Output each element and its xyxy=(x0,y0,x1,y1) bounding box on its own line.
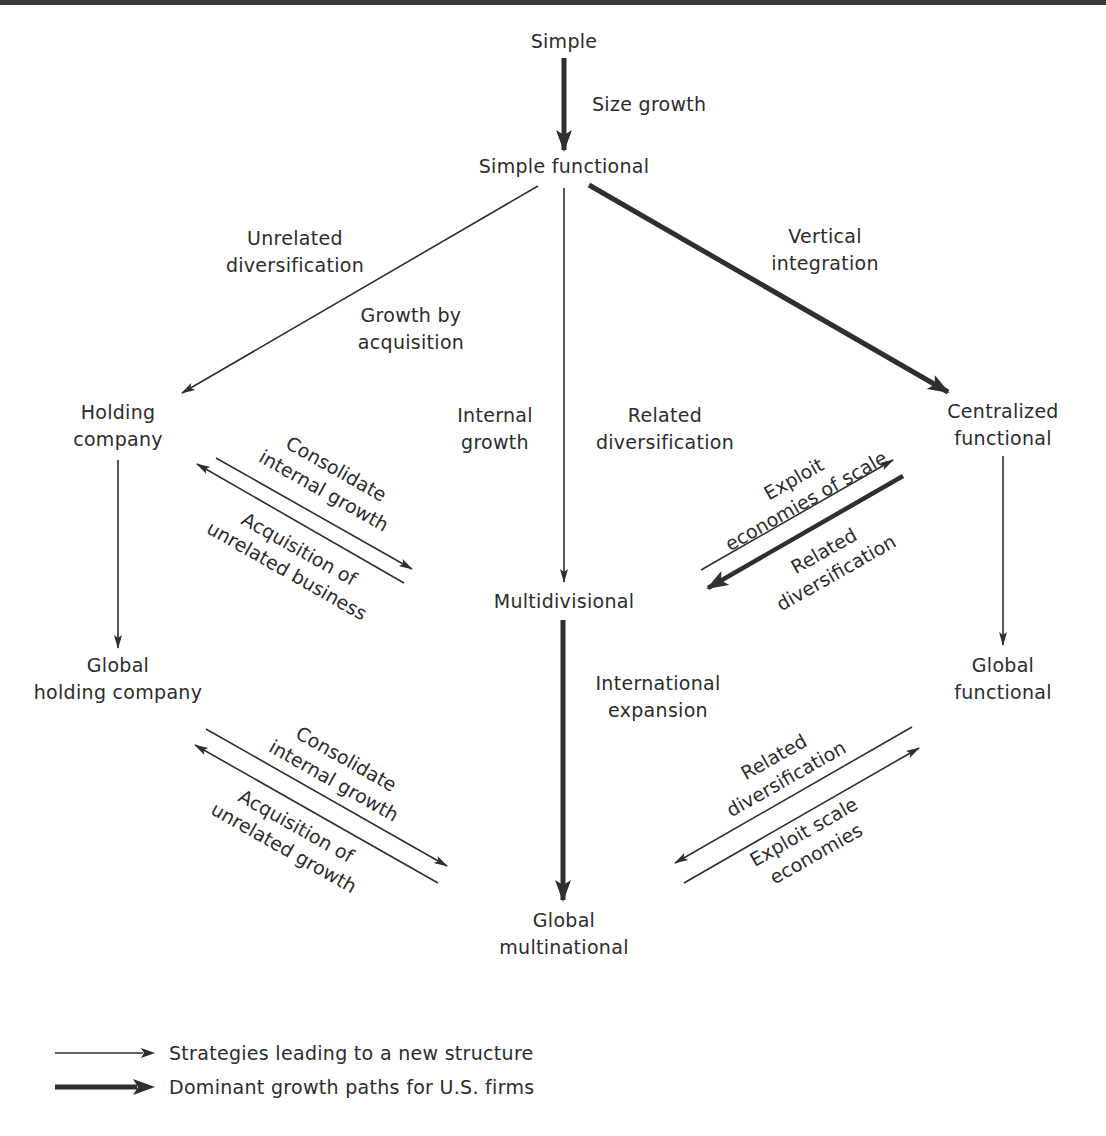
legend-thin: Strategies leading to a new structure xyxy=(55,1041,534,1065)
label-international-expansion: International expansion xyxy=(578,670,738,724)
label-size-growth: Size growth xyxy=(592,91,732,118)
label-related-diversification-center: Related diversification xyxy=(580,402,750,456)
node-global-holding-company: Global holding company xyxy=(28,652,208,706)
label-vertical-integration: Vertical integration xyxy=(750,223,900,277)
node-holding-company: Holding company xyxy=(38,399,198,453)
thick-arrow-icon xyxy=(55,1078,155,1096)
legend-thick: Dominant growth paths for U.S. firms xyxy=(55,1075,534,1099)
arrow-vertical-integration xyxy=(589,185,948,392)
node-centralized-functional: Centralized functional xyxy=(918,398,1088,452)
node-simple-functional: Simple functional xyxy=(444,153,684,180)
legend-thick-label: Dominant growth paths for U.S. firms xyxy=(169,1076,534,1098)
label-unrelated-diversification: Unrelated diversification xyxy=(205,225,385,279)
label-growth-by-acquisition: Growth by acquisition xyxy=(336,302,486,356)
node-multidivisional: Multidivisional xyxy=(464,588,664,615)
node-global-multinational: Global multinational xyxy=(474,907,654,961)
thin-arrow-icon xyxy=(55,1046,155,1060)
node-global-functional: Global functional xyxy=(928,652,1078,706)
label-internal-growth: Internal growth xyxy=(440,402,550,456)
legend-thin-label: Strategies leading to a new structure xyxy=(169,1042,534,1064)
arrow-unrelated-diversification xyxy=(182,186,538,393)
node-simple: Simple xyxy=(464,28,664,55)
